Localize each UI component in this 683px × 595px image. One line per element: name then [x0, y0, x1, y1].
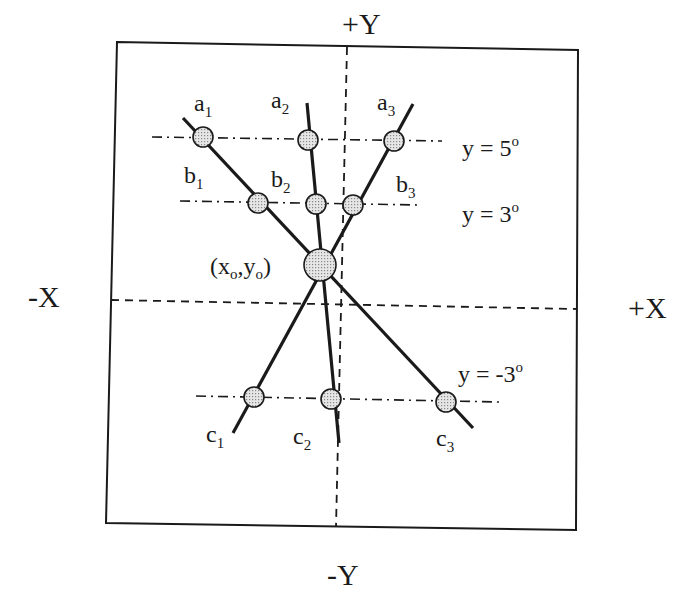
marker-b2 — [306, 194, 326, 214]
label-y-3: y = -3o — [458, 359, 523, 387]
label-b1: b1 — [184, 162, 204, 192]
label-origin: (xo,yo) — [210, 253, 271, 282]
marker-a1 — [193, 127, 213, 147]
label-c3: c3 — [436, 425, 454, 455]
label-b3: b3 — [396, 171, 416, 201]
marker-c3 — [436, 392, 456, 412]
ref-line-y3 — [180, 201, 420, 205]
label-a2: a2 — [271, 87, 289, 117]
label-neg-x: -X — [28, 280, 60, 313]
label-c1: c1 — [206, 421, 224, 451]
marker-origin — [304, 249, 336, 281]
marker-b1 — [248, 193, 268, 213]
x-axis-dashed — [111, 300, 577, 309]
label-a3: a3 — [377, 89, 395, 119]
label-pos-y: +Y — [342, 7, 381, 40]
label-pos-x: +X — [628, 291, 667, 324]
marker-a3 — [384, 131, 404, 151]
marker-a2 — [298, 130, 318, 150]
marker-b3 — [343, 195, 363, 215]
label-a1: a1 — [194, 90, 212, 120]
label-y5: y = 5o — [462, 133, 519, 161]
label-y3: y = 3o — [462, 199, 519, 227]
diagram-canvas: +Y -Y -X +X a1 a2 a3 b1 b2 b3 c1 c2 c3 (… — [0, 0, 683, 595]
label-b2: b2 — [271, 166, 291, 196]
label-c2: c2 — [293, 423, 311, 453]
marker-c1 — [244, 387, 264, 407]
marker-c2 — [321, 389, 341, 409]
label-neg-y: -Y — [327, 558, 359, 591]
